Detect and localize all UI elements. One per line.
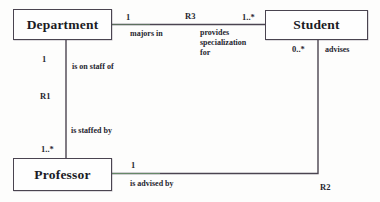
role-label-is-on-staff-of: is on staff of (72, 62, 114, 71)
role-label-majors-in: majors in (130, 29, 163, 38)
role-label-is-advised-by: is advised by (130, 179, 174, 188)
cardinality-student-to-department: 1..* (242, 12, 255, 22)
cardinality-student-to-professor: 0..* (292, 44, 305, 54)
role-label-provides-specialization-for-line2: specialization (200, 38, 246, 47)
entity-professor-label: Professor (34, 167, 90, 183)
role-label-provides-specialization-for-line3: for (200, 48, 210, 57)
role-label-provides-specialization-for-line1: provides (200, 28, 229, 37)
cardinality-department-to-professor: 1 (42, 54, 46, 64)
entity-department[interactable]: Department (13, 9, 112, 40)
entity-student[interactable]: Student (265, 10, 368, 40)
cardinality-professor-to-student: 1 (131, 160, 135, 170)
cardinality-professor-to-department: 1..* (41, 144, 54, 154)
entity-professor[interactable]: Professor (13, 158, 112, 191)
role-label-advises: advises (325, 45, 349, 54)
relationship-label-r3: R3 (185, 11, 195, 21)
relationship-label-r2: R2 (320, 182, 330, 192)
er-diagram-canvas: Department Student Professor 1 R3 majors… (0, 0, 380, 202)
entity-department-label: Department (27, 17, 99, 33)
role-label-is-staffed-by: is staffed by (71, 126, 112, 135)
relationship-label-r1: R1 (40, 91, 50, 101)
entity-student-label: Student (293, 17, 339, 33)
cardinality-department-to-student: 1 (126, 12, 130, 22)
connector-professor-student (112, 40, 318, 174)
